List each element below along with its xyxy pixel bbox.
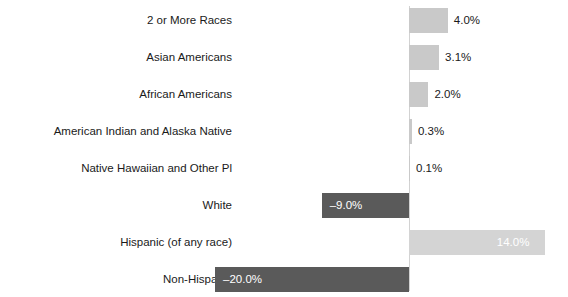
- category-label: African Americans: [139, 82, 232, 107]
- category-label: Asian Americans: [146, 45, 232, 70]
- bar: [409, 45, 439, 70]
- chart-row: American Indian and Alaska Native 0.3%: [0, 119, 568, 156]
- chart-row: Hispanic (of any race) 14.0%: [0, 230, 568, 267]
- category-label: American Indian and Alaska Native: [54, 119, 232, 144]
- bar: [409, 8, 448, 33]
- data-label: 2.0%: [434, 82, 460, 107]
- data-label: –9.0%: [330, 193, 363, 218]
- chart-row: Non-Hispanic –20.0%: [0, 267, 568, 297]
- bar: [409, 82, 428, 107]
- plot-area: 2 or More Races 4.0% Asian Americans 3.1…: [0, 0, 568, 297]
- bar: [409, 119, 412, 144]
- chart-row: African Americans 2.0%: [0, 82, 568, 119]
- category-label: Hispanic (of any race): [120, 230, 232, 255]
- chart-row: White –9.0%: [0, 193, 568, 230]
- bar: [409, 156, 410, 181]
- data-label: 4.0%: [454, 8, 480, 33]
- horizontal-bar-chart: 2 or More Races 4.0% Asian Americans 3.1…: [0, 0, 568, 297]
- data-label: 3.1%: [445, 45, 471, 70]
- category-label: 2 or More Races: [147, 8, 232, 33]
- chart-row: Native Hawaiian and Other Pl 0.1%: [0, 156, 568, 193]
- chart-row: 2 or More Races 4.0%: [0, 8, 568, 45]
- data-label: 14.0%: [497, 230, 530, 255]
- data-label: –20.0%: [223, 267, 262, 292]
- chart-row: Asian Americans 3.1%: [0, 45, 568, 82]
- data-label: 0.1%: [416, 156, 442, 181]
- category-label: White: [203, 193, 232, 218]
- data-label: 0.3%: [418, 119, 444, 144]
- category-label: Native Hawaiian and Other Pl: [81, 156, 232, 181]
